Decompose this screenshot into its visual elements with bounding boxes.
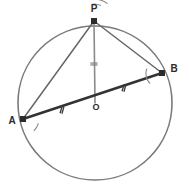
- vertex-dot-b: [160, 71, 165, 76]
- point-label-a: A: [8, 115, 15, 126]
- vertex-dot-p: [92, 19, 97, 24]
- center-label-o: O: [92, 102, 99, 112]
- point-label-b: B: [170, 63, 177, 74]
- segment-pb: [94, 21, 162, 73]
- vertex-dot-a: [21, 117, 26, 122]
- geometry-figure: P B A O: [0, 0, 189, 187]
- radius-po: [94, 21, 95, 103]
- angle-arc-at-a: [34, 123, 39, 130]
- point-label-p: P: [91, 3, 98, 14]
- geometry-canvas: P B A O: [0, 0, 189, 187]
- chord-ab: [23, 73, 162, 119]
